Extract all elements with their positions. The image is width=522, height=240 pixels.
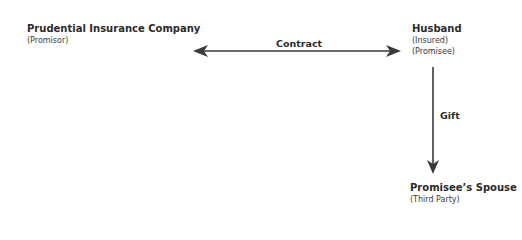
node-husband: Husband (Insured) (Promisee) [412, 23, 462, 57]
spouse-title: Promisee’s Spouse [410, 182, 517, 194]
spouse-role: (Third Party) [410, 194, 517, 205]
node-spouse: Promisee’s Spouse (Third Party) [410, 182, 517, 205]
promisor-role: (Promisor) [27, 35, 200, 46]
contract-label: Contract [276, 38, 322, 49]
promisor-title: Prudential Insurance Company [27, 23, 200, 35]
gift-arrow [427, 67, 439, 174]
node-promisor: Prudential Insurance Company (Promisor) [27, 23, 200, 46]
husband-title: Husband [412, 23, 462, 35]
husband-role-insured: (Insured) [412, 35, 462, 46]
husband-role-promisee: (Promisee) [412, 46, 462, 57]
gift-label: Gift [440, 110, 460, 121]
